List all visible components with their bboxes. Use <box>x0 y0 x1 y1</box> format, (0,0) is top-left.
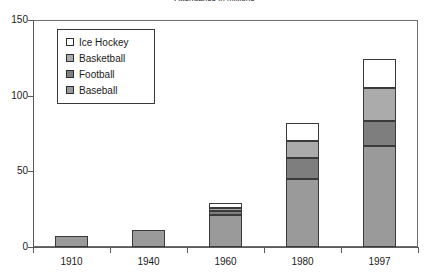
x-tick <box>110 248 111 253</box>
x-tick <box>418 248 419 253</box>
legend-item[interactable]: Baseball <box>66 82 148 98</box>
bar-segment[interactable] <box>286 123 319 141</box>
x-axis <box>33 247 419 248</box>
bar-segment[interactable] <box>209 203 242 208</box>
bar-segment[interactable] <box>363 121 396 145</box>
x-tick-label: 1960 <box>187 256 264 267</box>
y-tick-label: 0 <box>0 242 28 252</box>
legend-item-label: Baseball <box>79 85 117 96</box>
bar-group <box>341 20 418 247</box>
y-tick-label: 50 <box>0 166 28 176</box>
legend-swatch-icon <box>66 38 74 46</box>
x-tick-label: 1910 <box>33 256 110 267</box>
x-tick-label: 1980 <box>264 256 341 267</box>
bar-segment[interactable] <box>286 179 319 247</box>
bar-segment[interactable] <box>209 208 242 211</box>
bar-segment[interactable] <box>286 158 319 179</box>
chart-legend: Ice HockeyBasketballFootballBaseball <box>57 29 155 104</box>
legend-swatch-icon <box>66 86 74 94</box>
legend-item-label: Ice Hockey <box>79 37 128 48</box>
attendance-stacked-bar-chart: Attendance in millions 050100150 1910194… <box>0 0 429 274</box>
legend-item[interactable]: Ice Hockey <box>66 34 148 50</box>
bar-segment[interactable] <box>55 236 88 247</box>
bar-segment[interactable] <box>363 146 396 247</box>
bar-segment[interactable] <box>209 211 242 216</box>
bar-group <box>264 20 341 247</box>
legend-item-label: Basketball <box>79 53 125 64</box>
x-tick-label: 1940 <box>110 256 187 267</box>
x-tick <box>33 248 34 253</box>
bar-segment[interactable] <box>132 230 165 247</box>
bar-segment[interactable] <box>363 88 396 121</box>
legend-swatch-icon <box>66 54 74 62</box>
legend-swatch-icon <box>66 70 74 78</box>
x-tick <box>187 248 188 253</box>
legend-item-label: Football <box>79 69 115 80</box>
x-tick-label: 1997 <box>341 256 418 267</box>
x-tick <box>264 248 265 253</box>
y-tick-label: 150 <box>0 15 28 25</box>
legend-item[interactable]: Football <box>66 66 148 82</box>
y-tick-label: 100 <box>0 91 28 101</box>
bar-segment[interactable] <box>209 215 242 247</box>
bar-segment[interactable] <box>363 59 396 88</box>
bar-group <box>187 20 264 247</box>
legend-item[interactable]: Basketball <box>66 50 148 66</box>
chart-title: Attendance in millions <box>0 0 429 3</box>
bar-segment[interactable] <box>286 141 319 158</box>
x-tick <box>341 248 342 253</box>
